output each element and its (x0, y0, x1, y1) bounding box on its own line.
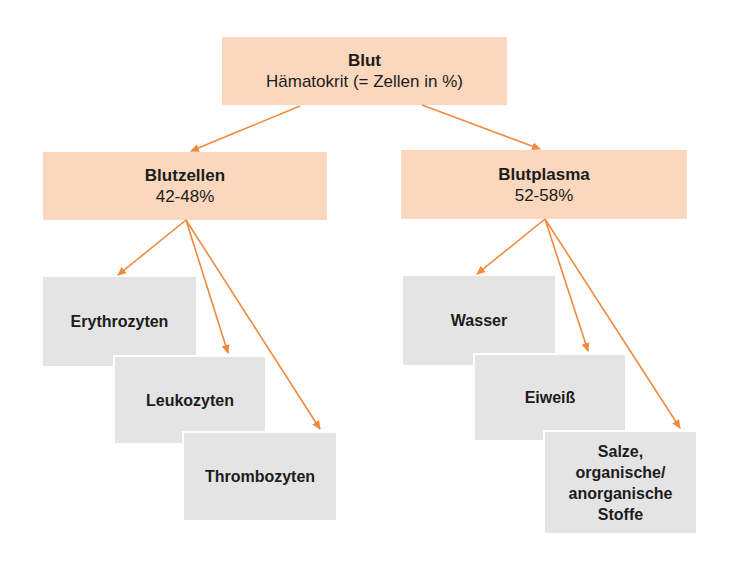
arrow-blutzellen-to-erythrozyten (118, 220, 186, 275)
salze-line-2: organische/ (576, 462, 666, 483)
salze-line-4: Stoffe (598, 504, 643, 525)
salze-line-3: anorganische (568, 483, 672, 504)
arrow-blut-to-blutplasma (422, 105, 540, 149)
leaf-leukozyten: Leukozyten (113, 355, 265, 443)
blutplasma-value: 52-58% (515, 185, 574, 206)
root-node-blut: Blut Hämatokrit (= Zellen in %) (222, 37, 507, 105)
root-subtitle: Hämatokrit (= Zellen in %) (266, 71, 463, 92)
root-title: Blut (348, 50, 381, 71)
eiweiss-label: Eiweiß (525, 387, 576, 408)
salze-line-1: Salze, (598, 441, 643, 462)
blutzellen-value: 42-48% (156, 186, 215, 207)
leaf-erythrozyten: Erythrozyten (43, 277, 196, 366)
leaf-wasser: Wasser (403, 276, 555, 365)
thrombozyten-label: Thrombozyten (205, 466, 315, 487)
leaf-salze: Salze, organische/ anorganische Stoffe (543, 430, 696, 533)
erythrozyten-label: Erythrozyten (71, 311, 169, 332)
leukozyten-label: Leukozyten (146, 390, 234, 411)
leaf-eiweiss: Eiweiß (473, 353, 625, 440)
leaf-thrombozyten: Thrombozyten (182, 431, 336, 520)
node-blutzellen: Blutzellen 42-48% (43, 152, 327, 220)
blutplasma-title: Blutplasma (498, 164, 590, 185)
arrow-blutplasma-to-wasser (477, 219, 545, 274)
node-blutplasma: Blutplasma 52-58% (401, 150, 687, 219)
blutzellen-title: Blutzellen (145, 165, 225, 186)
wasser-label: Wasser (451, 310, 507, 331)
arrow-blut-to-blutzellen (191, 106, 300, 151)
